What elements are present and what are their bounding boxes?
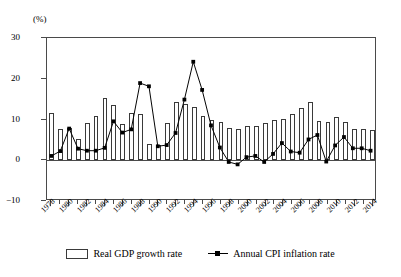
legend-label-real-gdp: Real GDP growth rate — [93, 248, 182, 259]
legend-item-annual-cpi-inflation-rate: Annual CPI inflation rate — [208, 248, 334, 259]
cpi-data-point-marker — [200, 88, 204, 92]
legend-label-cpi: Annual CPI inflation rate — [233, 248, 334, 259]
y-axis-tick-label: −10 — [0, 195, 20, 205]
cpi-data-point-marker — [76, 147, 80, 151]
chart-figure: (%) 3020100−10 1978198019821984198619881… — [0, 0, 401, 277]
cpi-data-point-marker — [174, 131, 178, 135]
cpi-data-point-marker — [342, 135, 346, 139]
x-axis-tick-mark — [131, 200, 132, 204]
x-axis-tick-mark — [363, 200, 364, 204]
cpi-data-point-marker — [85, 149, 89, 153]
cpi-data-point-marker — [360, 146, 364, 150]
cpi-data-point-marker — [156, 144, 160, 148]
cpi-data-point-marker — [324, 160, 328, 164]
x-axis-tick-labels: 1978198019821984198619881990199219941996… — [0, 206, 401, 240]
cpi-data-point-marker — [165, 143, 169, 147]
cpi-data-point-marker — [103, 146, 107, 150]
cpi-data-point-marker — [209, 123, 213, 127]
cpi-data-point-marker — [369, 149, 373, 153]
cpi-data-point-marker — [183, 98, 187, 102]
chart-legend: Real GDP growth rate Annual CPI inflatio… — [0, 248, 401, 259]
bar-swatch-icon — [66, 249, 88, 259]
y-axis-unit-label: (%) — [33, 14, 47, 24]
cpi-data-point-marker — [227, 160, 231, 164]
cpi-data-point-marker — [94, 149, 98, 153]
y-axis-tick-label: 0 — [0, 154, 20, 164]
cpi-data-point-marker — [298, 151, 302, 155]
cpi-line-path — [51, 62, 370, 165]
cpi-data-point-marker — [351, 146, 355, 150]
cpi-data-point-marker — [129, 127, 133, 131]
y-axis-tick-label: 30 — [0, 32, 20, 42]
cpi-data-point-marker — [307, 138, 311, 142]
cpi-data-point-marker — [147, 84, 151, 88]
cpi-data-point-marker — [112, 119, 116, 123]
cpi-data-point-marker — [50, 154, 54, 158]
cpi-data-point-marker — [67, 127, 71, 131]
cpi-data-point-marker — [262, 160, 266, 164]
y-axis-tick-label: 10 — [0, 114, 20, 124]
cpi-data-point-marker — [315, 133, 319, 137]
legend-item-real-gdp-growth-rate: Real GDP growth rate — [66, 248, 182, 259]
cpi-data-point-marker — [120, 131, 124, 135]
cpi-data-point-marker — [58, 149, 62, 153]
x-axis-tick-mark — [238, 200, 239, 204]
plot-area — [46, 37, 376, 200]
cpi-data-point-marker — [280, 141, 284, 145]
cpi-data-point-marker — [138, 81, 142, 85]
line-series-annual-cpi-inflation-rate — [47, 38, 375, 199]
cpi-data-point-marker — [253, 154, 257, 158]
x-axis-tick-mark — [256, 200, 257, 204]
cpi-data-point-marker — [271, 152, 275, 156]
cpi-data-point-marker — [333, 144, 337, 148]
cpi-data-point-marker — [236, 163, 240, 167]
line-marker-swatch-icon — [208, 250, 228, 258]
cpi-data-point-marker — [218, 146, 222, 150]
y-axis-tick-label: 20 — [0, 73, 20, 83]
cpi-data-point-marker — [289, 150, 293, 154]
cpi-data-point-marker — [245, 155, 249, 159]
cpi-data-point-marker — [191, 60, 195, 64]
